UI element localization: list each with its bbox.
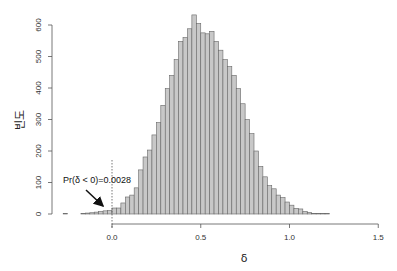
histogram-bar	[174, 60, 178, 214]
histogram-bar	[134, 188, 138, 214]
histogram-bar	[250, 134, 254, 214]
histogram-bar	[152, 135, 156, 214]
y-tick-label: 600	[34, 18, 43, 32]
histogram-bar	[285, 202, 289, 214]
histogram-bar	[196, 23, 200, 214]
histogram-bar	[90, 213, 94, 214]
histogram-bar	[312, 213, 316, 214]
histogram-bar	[303, 211, 307, 214]
histogram-bar	[187, 29, 191, 214]
probability-annotation: Pr(δ < 0)=0.0028	[63, 175, 131, 185]
histogram-bar	[232, 75, 236, 214]
histogram-bar	[121, 203, 125, 214]
histogram-bar	[276, 195, 280, 214]
histogram-bar	[179, 41, 183, 214]
histogram-bar	[227, 67, 231, 214]
histogram-bar	[241, 104, 245, 214]
histogram-bar	[103, 211, 107, 214]
y-tick-label: 300	[34, 112, 43, 126]
histogram-bar	[223, 60, 227, 214]
histogram-bar	[214, 41, 218, 214]
histogram-bar	[183, 38, 187, 214]
histogram-bar	[245, 120, 249, 215]
x-axis: 0.00.51.01.5	[106, 224, 384, 242]
x-tick-label: 1.5	[373, 233, 385, 242]
histogram-bar	[205, 34, 209, 214]
histogram-bar	[307, 212, 311, 214]
histogram-bar	[94, 212, 98, 214]
histogram-bar	[156, 123, 160, 214]
x-tick-label: 1.0	[284, 233, 296, 242]
annotation-arrow	[86, 190, 103, 206]
histogram-bar	[267, 186, 271, 214]
histogram-bar	[201, 33, 205, 214]
x-axis-title: δ	[241, 252, 248, 265]
y-axis: 0100200300400500600	[34, 18, 52, 216]
histogram-bar	[272, 189, 276, 214]
histogram-bar	[210, 31, 214, 214]
histogram-bar	[130, 195, 134, 214]
histogram-bar	[63, 213, 67, 214]
histogram-bar	[85, 213, 89, 214]
histogram-chart: 0100200300400500600 0.00.51.01.5 δ 빈도 Pr…	[0, 0, 397, 271]
y-tick-label: 400	[34, 81, 43, 95]
histogram-bar	[263, 177, 267, 214]
y-tick-label: 0	[34, 211, 43, 216]
histogram-bar	[290, 205, 294, 214]
histogram-bar	[108, 211, 112, 214]
y-tick-label: 200	[34, 144, 43, 158]
histogram-bar	[161, 105, 165, 214]
histogram-bar	[148, 150, 152, 214]
histogram-bar	[298, 209, 302, 214]
histogram-bar	[281, 198, 285, 214]
histogram-bar	[116, 208, 120, 214]
histogram-bar	[99, 211, 103, 214]
histogram-bar	[170, 75, 174, 214]
histogram-bar	[139, 170, 143, 214]
y-axis-title: 빈도	[14, 110, 27, 130]
histogram-bar	[316, 213, 320, 214]
histogram-bar	[294, 208, 298, 214]
y-tick-label: 100	[34, 175, 43, 189]
x-tick-label: 0.5	[195, 233, 207, 242]
y-tick-label: 500	[34, 49, 43, 63]
histogram-bar	[112, 208, 116, 214]
histogram-bar	[236, 89, 240, 214]
histogram-bar	[219, 50, 223, 214]
histogram-bar	[125, 197, 129, 214]
histogram-bar	[258, 166, 262, 214]
histogram-bar	[192, 15, 196, 214]
histogram-bar	[254, 151, 258, 214]
x-tick-label: 0.0	[106, 233, 118, 242]
histogram-bar	[165, 89, 169, 214]
histogram-bar	[143, 157, 147, 214]
